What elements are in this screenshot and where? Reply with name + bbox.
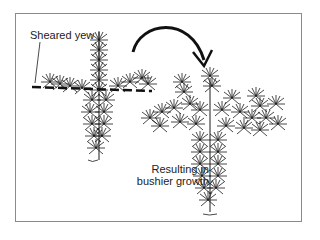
result-label-line1: Resulting in [133,163,209,175]
label-pointer [35,42,40,83]
result-label: Resulting in bushier growth [133,163,209,187]
sheared-yew-plant [32,31,157,162]
bushier-yew-plant [141,67,287,215]
result-label-line2: bushier growth [133,175,209,187]
curved-arrow-icon [133,28,212,67]
sheared-yew-label: Sheared yew [30,29,94,41]
shear-line [32,87,152,91]
